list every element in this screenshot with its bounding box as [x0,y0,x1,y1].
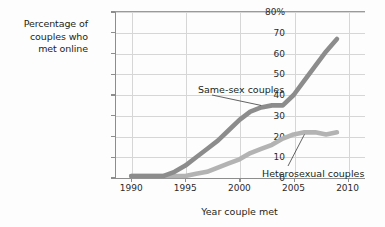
series-label-same-sex: Same-sex couples [198,84,284,95]
y-tick-mark [111,94,115,95]
y-axis-title-line-2: couples who [6,31,88,44]
y-tick-mark [111,115,115,116]
x-tick-mark [185,178,186,182]
y-tick-label-10: 10 [259,152,285,162]
y-tick-label-20: 20 [259,132,285,142]
x-tick-mark [239,178,240,182]
gridline-vertical [240,12,241,178]
x-tick-label-2005: 2005 [274,183,314,193]
y-tick-mark [111,11,115,12]
y-axis-title-line-1: Percentage of [6,18,88,31]
y-tick-mark [111,177,115,178]
gridline-vertical [349,12,350,178]
x-tick-label-2000: 2000 [219,183,259,193]
x-tick-label-1990: 1990 [111,183,151,193]
y-tick-mark [111,157,115,158]
y-axis-title: Percentage of couples who met online [6,18,88,56]
y-tick-mark [111,136,115,137]
y-tick-label-50: 50 [259,69,285,79]
gridline-vertical [186,12,187,178]
gridline-vertical [295,12,296,178]
y-tick-mark [111,53,115,54]
y-tick-label-70: 70 [259,28,285,38]
y-tick-mark [111,74,115,75]
y-tick-label-60: 60 [259,49,285,59]
x-axis-title: Year couple met [115,206,364,217]
y-axis-title-line-3: met online [6,43,88,56]
x-tick-label-2010: 2010 [328,183,368,193]
gridline-vertical [132,12,133,178]
chart-figure: Percentage of couples who met online 0 1… [0,0,385,227]
plot-area [115,12,365,179]
series-label-heterosexual: Heterosexual couples [262,168,364,179]
y-tick-mark [111,32,115,33]
x-tick-mark [131,178,132,182]
y-tick-label-80: 80% [259,7,285,17]
x-tick-label-1995: 1995 [165,183,205,193]
y-tick-label-30: 30 [259,111,285,121]
